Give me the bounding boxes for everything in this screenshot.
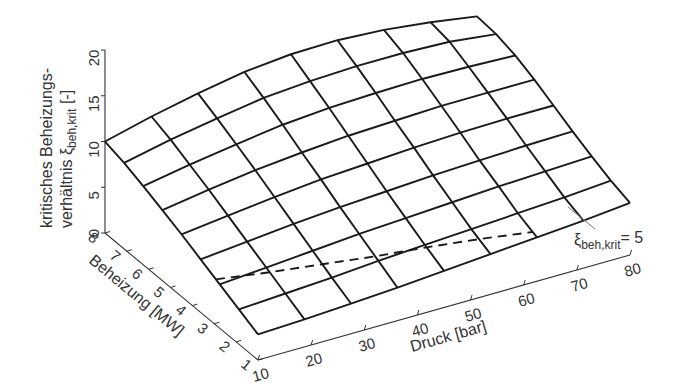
mesh-line-const-heating bbox=[181, 106, 553, 235]
x-tick-label: 80 bbox=[622, 259, 643, 280]
x-tick-label: 70 bbox=[569, 274, 590, 295]
y-tick-label: 2 bbox=[216, 337, 233, 355]
mesh-line-const-pressure bbox=[384, 30, 537, 238]
mesh-line-const-heating bbox=[258, 203, 630, 335]
x-tick bbox=[630, 250, 632, 255]
y-tick bbox=[105, 232, 110, 234]
axis-labels: kritisches Beheizungs- verhältnis ξbeh,k… bbox=[38, 68, 643, 355]
z-axis-label-line2: verhältnis ξbeh,krit [-] bbox=[58, 90, 79, 228]
mesh-line-const-pressure bbox=[291, 54, 444, 271]
y-tick-label: 3 bbox=[194, 319, 211, 337]
mesh-line-const-pressure bbox=[198, 93, 351, 303]
z-tick-label: 15 bbox=[85, 95, 102, 112]
x-tick-label: 60 bbox=[516, 289, 537, 310]
mesh-line-const-heating bbox=[220, 156, 592, 284]
mesh-line-const-heating bbox=[201, 131, 573, 259]
x-tick-label: 10 bbox=[250, 364, 271, 385]
z-axis-label-line1: kritisches Beheizungs- bbox=[38, 68, 55, 228]
y-axis-label: Beheizung [MW] bbox=[86, 251, 187, 339]
mesh-line-const-heating bbox=[162, 80, 534, 211]
y-tick bbox=[236, 340, 241, 342]
z-tick-label: 5 bbox=[85, 191, 102, 199]
mesh-line-const-pressure bbox=[337, 40, 490, 254]
x-tick-label: 20 bbox=[303, 349, 324, 370]
y-tick bbox=[127, 250, 132, 252]
surface-plot-3d: 10203040506070801234567805101520 kritisc… bbox=[0, 0, 698, 387]
mesh-line-const-pressure bbox=[244, 72, 397, 288]
y-tick bbox=[214, 322, 219, 324]
y-tick bbox=[149, 268, 154, 270]
x-tick-label: 30 bbox=[356, 334, 377, 355]
y-tick bbox=[171, 286, 176, 288]
z-tick-label: 20 bbox=[85, 50, 102, 67]
z-tick-label: 10 bbox=[85, 141, 102, 158]
contour-label: ξbeh,krit= 5 bbox=[574, 229, 643, 252]
z-tick-label: 0 bbox=[85, 229, 102, 237]
surface-mesh bbox=[105, 16, 630, 334]
mesh-line-const-heating bbox=[124, 34, 496, 163]
y-tick bbox=[192, 304, 197, 306]
